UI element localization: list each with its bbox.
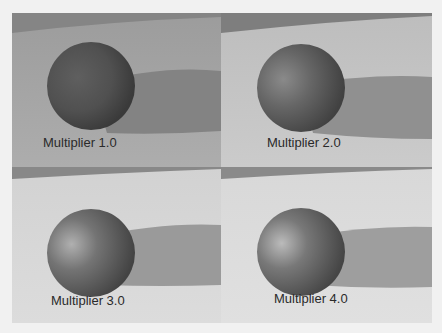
multiplier-label: Multiplier 2.0 [267, 135, 341, 150]
render-panel-3: Multiplier 3.0 [12, 167, 221, 323]
multiplier-label: Multiplier 4.0 [274, 291, 348, 306]
render-panel-1: Multiplier 1.0 [12, 13, 221, 167]
comparison-grid: Multiplier 1.0 Multiplier 2.0 [12, 13, 432, 323]
render-panel-2: Multiplier 2.0 [221, 13, 432, 167]
multiplier-label: Multiplier 3.0 [51, 293, 125, 308]
multiplier-label: Multiplier 1.0 [43, 135, 117, 150]
render-panel-4: Multiplier 4.0 [221, 167, 432, 323]
